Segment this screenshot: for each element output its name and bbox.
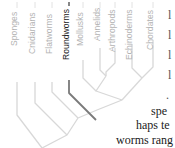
body-text-fragment-c: l bbox=[168, 48, 171, 62]
branch-annelids bbox=[100, 48, 106, 76]
taxon-label-flatworms: Flatworms bbox=[44, 14, 54, 54]
body-text-fragment-d: l bbox=[168, 68, 171, 82]
body-text-fragment-b: l bbox=[168, 28, 171, 42]
body-text-line-2: haps te bbox=[136, 118, 170, 132]
taxon-label-arthropods: Arthropods bbox=[107, 9, 117, 52]
taxon-label-roundworms: Roundworms bbox=[61, 9, 71, 60]
taxon-label-mollusks: Mollusks bbox=[75, 12, 85, 46]
branch-sponges bbox=[17, 82, 42, 148]
body-text-fragment-e: . bbox=[166, 88, 169, 102]
taxon-label-sponges: Sponges bbox=[9, 12, 19, 46]
taxon-label-cnidarians: Cnidarians bbox=[27, 12, 37, 54]
cladogram-figure: Sponges Cnidarians Flatworms Roundworms … bbox=[0, 0, 175, 148]
branch-trunk bbox=[42, 110, 97, 148]
taxon-label-echinoderms: Echinoderms bbox=[124, 9, 134, 60]
taxon-label-annelids: Annelids bbox=[92, 8, 102, 41]
branch-cnidarians bbox=[35, 82, 67, 135]
taxon-label-chordates: Chordates bbox=[145, 10, 155, 50]
body-text-fragment-a: l bbox=[168, 8, 171, 22]
body-text-line-1: spe bbox=[151, 104, 167, 118]
branch-internal-3 bbox=[97, 100, 122, 110]
branch-mollusks bbox=[83, 60, 96, 91]
branch-arthropods bbox=[106, 48, 115, 76]
branch-flatworms bbox=[52, 82, 78, 118]
branch-internal-2 bbox=[122, 78, 142, 100]
branch-internal bbox=[96, 76, 122, 100]
branch-roundworms-highlighted bbox=[69, 80, 96, 120]
body-text-line-3: worms rang bbox=[116, 133, 173, 147]
